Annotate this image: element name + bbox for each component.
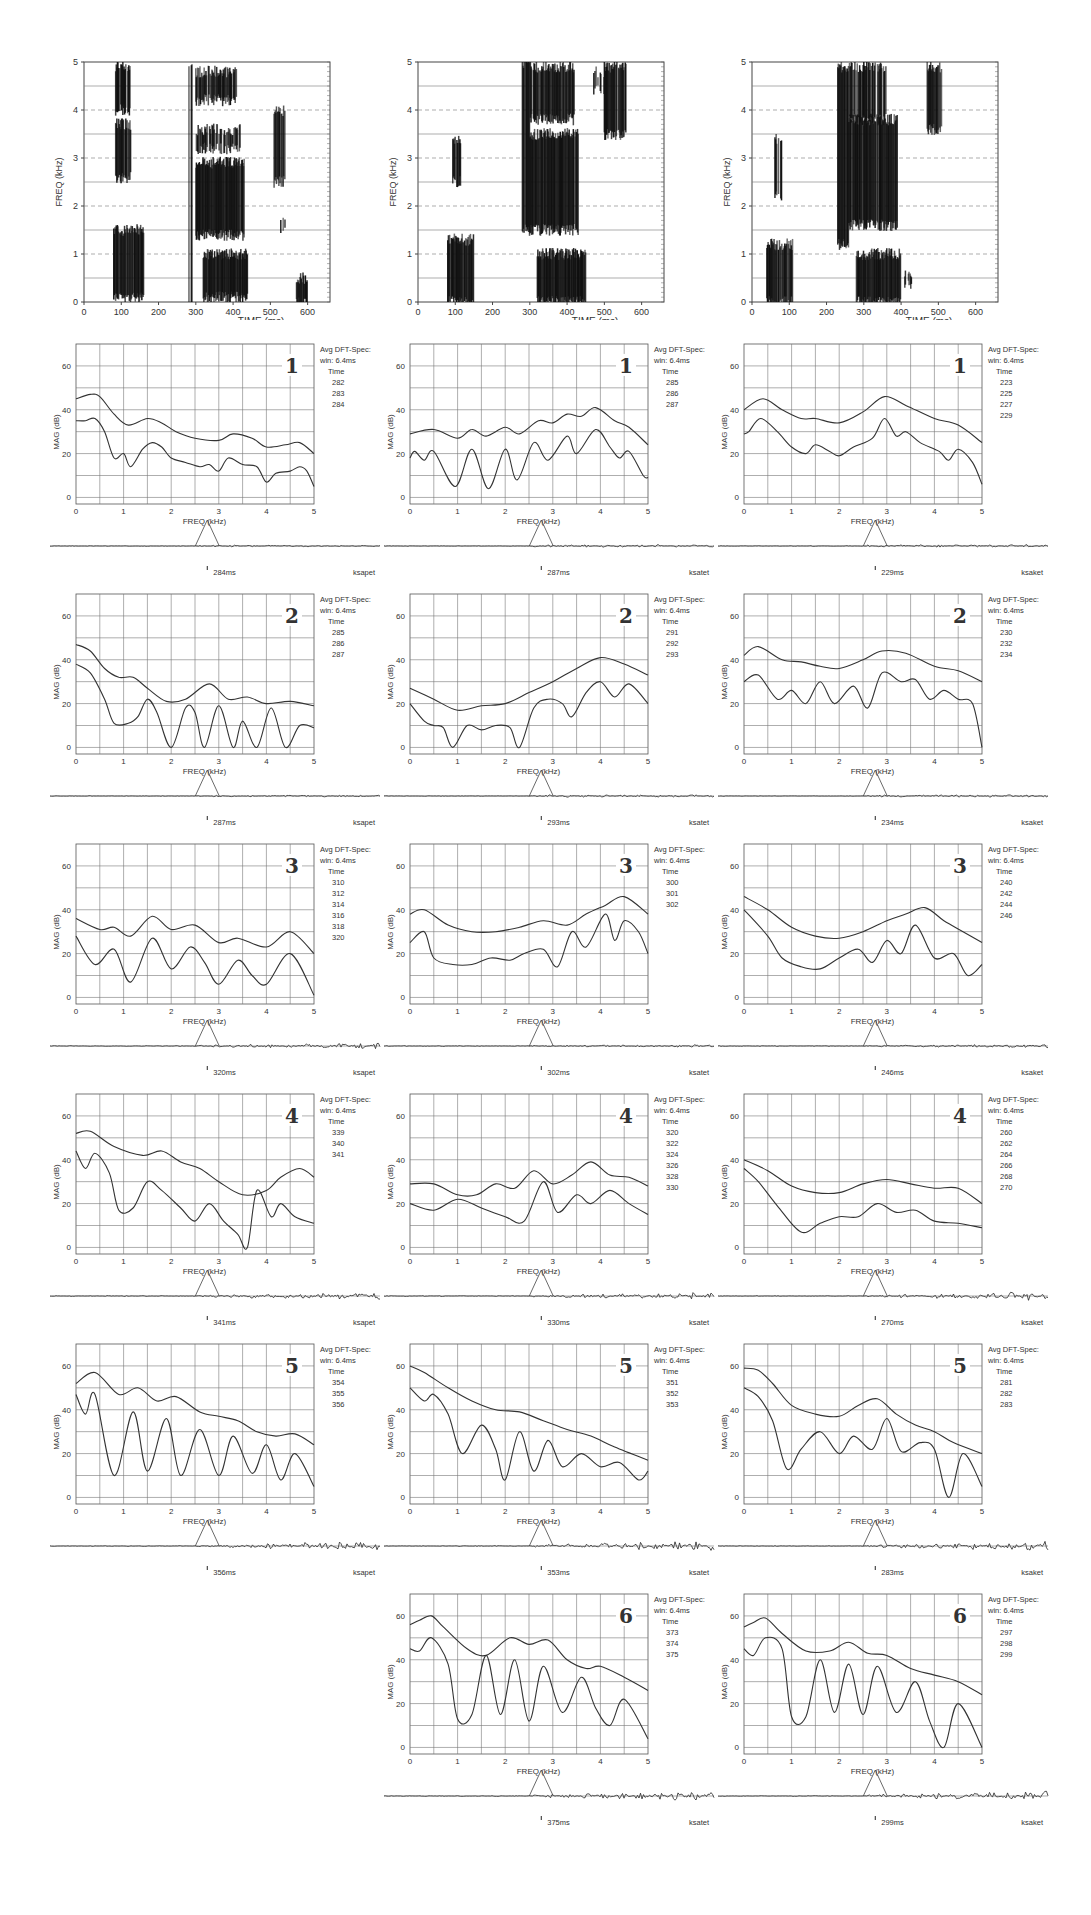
svg-text:4: 4 <box>932 1007 937 1016</box>
svg-text:0: 0 <box>742 1507 747 1516</box>
time-marker-label: 293ms <box>547 818 570 827</box>
word-label: ksapet <box>353 1568 376 1577</box>
svg-text:40: 40 <box>396 1156 405 1165</box>
spectrogram: 0123450100200300400500600FREQ (kHz)TIME … <box>374 50 714 320</box>
svg-text:20: 20 <box>62 1450 71 1459</box>
word-label: ksaket <box>1021 1818 1044 1827</box>
svg-text:1: 1 <box>455 1757 460 1766</box>
word-label: ksaket <box>1021 818 1044 827</box>
time-marker-label: 320ms <box>213 1068 236 1077</box>
svg-text:244: 244 <box>1000 900 1013 909</box>
svg-text:5: 5 <box>407 57 412 67</box>
svg-text:60: 60 <box>396 1112 405 1121</box>
svg-text:win: 6.4ms: win: 6.4ms <box>319 856 356 865</box>
spectrogram: 0123450100200300400500600FREQ (kHz)TIME … <box>40 50 380 320</box>
svg-text:0: 0 <box>408 1007 413 1016</box>
svg-text:Avg DFT-Spec:: Avg DFT-Spec: <box>320 345 371 354</box>
svg-text:MAG (dB): MAG (dB) <box>52 914 61 950</box>
svg-text:1: 1 <box>121 507 126 516</box>
spectrum-panel-4: 40204060012345MAG (dB)FREQ (kHz)Avg DFT-… <box>718 1090 1058 1338</box>
svg-text:60: 60 <box>730 362 739 371</box>
svg-text:4: 4 <box>264 1257 269 1266</box>
svg-text:40: 40 <box>396 406 405 415</box>
svg-text:314: 314 <box>332 900 345 909</box>
svg-text:20: 20 <box>396 1450 405 1459</box>
svg-text:MAG (dB): MAG (dB) <box>720 664 729 700</box>
time-marker-label: 229ms <box>881 568 904 577</box>
spectrogram-ylabel: FREQ (kHz) <box>722 158 732 207</box>
spectrum-panel-3: 30204060012345MAG (dB)FREQ (kHz)Avg DFT-… <box>50 840 390 1088</box>
svg-text:310: 310 <box>332 878 345 887</box>
svg-text:Time: Time <box>996 1617 1012 1626</box>
svg-text:0: 0 <box>67 1493 72 1502</box>
svg-text:286: 286 <box>666 389 679 398</box>
svg-text:Time: Time <box>996 1117 1012 1126</box>
word-label: ksaket <box>1021 568 1044 577</box>
svg-text:340: 340 <box>332 1139 345 1148</box>
svg-text:Time: Time <box>328 617 344 626</box>
spectrum-panel-5: 50204060012345MAG (dB)FREQ (kHz)Avg DFT-… <box>384 1340 724 1588</box>
svg-text:339: 339 <box>332 1128 345 1137</box>
svg-text:3: 3 <box>551 757 556 766</box>
svg-text:MAG (dB): MAG (dB) <box>52 1164 61 1200</box>
word-label: ksatet <box>689 568 710 577</box>
svg-text:2: 2 <box>837 507 842 516</box>
svg-text:2: 2 <box>503 1007 508 1016</box>
panel-number: 4 <box>619 1104 633 1128</box>
svg-text:Time: Time <box>662 367 678 376</box>
spectrum-legend: Avg DFT-Spec:win: 6.4msTime373374375 <box>653 1595 705 1659</box>
svg-text:60: 60 <box>62 862 71 871</box>
svg-text:316: 316 <box>332 911 345 920</box>
svg-text:297: 297 <box>1000 1628 1013 1637</box>
spectrogram-xlabel: TIME (ms) <box>572 316 619 320</box>
svg-text:MAG (dB): MAG (dB) <box>386 1414 395 1450</box>
svg-text:5: 5 <box>312 757 317 766</box>
svg-text:win: 6.4ms: win: 6.4ms <box>319 1106 356 1115</box>
svg-text:0: 0 <box>735 1493 740 1502</box>
svg-text:242: 242 <box>1000 889 1013 898</box>
svg-text:3: 3 <box>885 1507 890 1516</box>
svg-text:5: 5 <box>646 507 651 516</box>
svg-text:282: 282 <box>1000 1389 1013 1398</box>
svg-text:292: 292 <box>666 639 679 648</box>
svg-text:264: 264 <box>1000 1150 1013 1159</box>
svg-text:227: 227 <box>1000 400 1013 409</box>
svg-text:4: 4 <box>932 1257 937 1266</box>
svg-text:Time: Time <box>996 617 1012 626</box>
svg-text:1: 1 <box>455 507 460 516</box>
svg-text:40: 40 <box>62 906 71 915</box>
svg-text:0: 0 <box>735 743 740 752</box>
svg-text:298: 298 <box>1000 1639 1013 1648</box>
svg-text:1: 1 <box>789 1757 794 1766</box>
time-marker-label: 330ms <box>547 1318 570 1327</box>
svg-text:3: 3 <box>407 153 412 163</box>
word-label: ksapet <box>353 568 376 577</box>
svg-text:5: 5 <box>312 1007 317 1016</box>
svg-text:40: 40 <box>730 906 739 915</box>
svg-text:4: 4 <box>598 1757 603 1766</box>
spectrum-panel-2: 20204060012345MAG (dB)FREQ (kHz)Avg DFT-… <box>384 590 724 838</box>
svg-text:268: 268 <box>1000 1172 1013 1181</box>
svg-text:324: 324 <box>666 1150 679 1159</box>
svg-text:1: 1 <box>121 1507 126 1516</box>
svg-text:win: 6.4ms: win: 6.4ms <box>987 1606 1024 1615</box>
svg-text:MAG (dB): MAG (dB) <box>720 1664 729 1700</box>
svg-text:60: 60 <box>396 362 405 371</box>
svg-text:2: 2 <box>837 1757 842 1766</box>
svg-text:2: 2 <box>837 1257 842 1266</box>
svg-text:2: 2 <box>169 1257 174 1266</box>
svg-text:FREQ (kHz): FREQ (kHz) <box>517 1517 561 1526</box>
svg-text:Avg DFT-Spec:: Avg DFT-Spec: <box>654 845 705 854</box>
svg-text:40: 40 <box>396 1656 405 1665</box>
time-marker-label: 353ms <box>547 1568 570 1577</box>
svg-text:60: 60 <box>62 362 71 371</box>
spectrum-legend: Avg DFT-Spec:win: 6.4msTime354355356 <box>319 1345 371 1409</box>
svg-text:2: 2 <box>169 1507 174 1516</box>
svg-text:4: 4 <box>598 757 603 766</box>
svg-text:0: 0 <box>408 1507 413 1516</box>
svg-text:0: 0 <box>407 297 412 307</box>
svg-text:287: 287 <box>332 650 345 659</box>
svg-text:312: 312 <box>332 889 345 898</box>
svg-text:3: 3 <box>217 1007 222 1016</box>
word-label: ksapet <box>353 1318 376 1327</box>
